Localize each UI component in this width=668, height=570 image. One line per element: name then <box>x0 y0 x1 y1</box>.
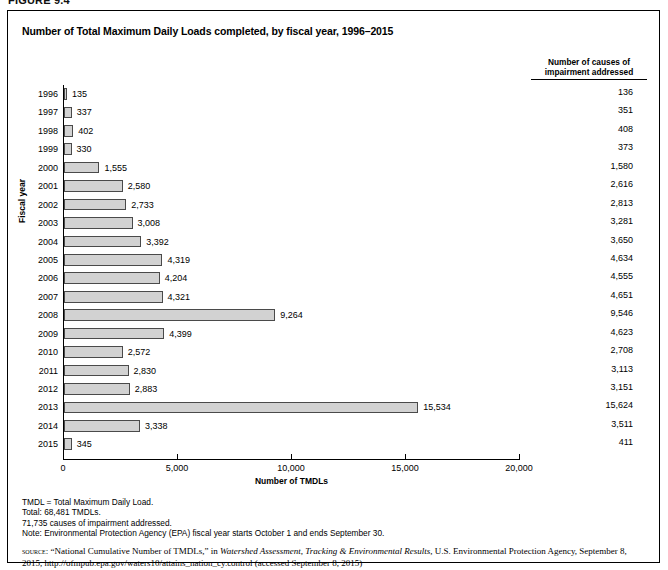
x-axis-tick <box>177 454 178 460</box>
bar-value-label: 9,264 <box>280 306 303 324</box>
bar <box>64 180 123 192</box>
bar-value-label: 4,321 <box>168 288 191 306</box>
bar <box>64 107 72 119</box>
bar-row: 20043,392 <box>8 233 661 251</box>
bar-row: 20122,883 <box>8 380 661 398</box>
x-axis-label: Number of TMDLs <box>63 476 520 486</box>
bar <box>64 162 99 174</box>
bar <box>64 383 130 395</box>
note-line: 71,735 causes of impairment addressed. <box>22 518 384 528</box>
bar <box>64 438 72 450</box>
x-axis-tick-label: 0 <box>60 463 65 473</box>
bar-year-label: 2001 <box>27 177 58 195</box>
bar <box>64 199 126 211</box>
bar <box>64 402 418 414</box>
bar-value-label: 337 <box>77 103 92 121</box>
x-axis-tick-label: 10,000 <box>277 463 305 473</box>
bar <box>64 125 73 137</box>
source-italic-title: Watershed Assessment, Tracking & Environ… <box>220 546 430 556</box>
bar-row: 20143,338 <box>8 417 661 435</box>
x-axis-tick-label: 20,000 <box>505 463 533 473</box>
bar-value-label: 345 <box>77 435 92 453</box>
bar-year-label: 2013 <box>27 398 58 416</box>
bar-value-label: 2,830 <box>134 362 157 380</box>
bar-row: 20112,830 <box>8 362 661 380</box>
bar-year-label: 2012 <box>27 380 58 398</box>
bar <box>64 254 162 266</box>
bar-year-label: 1997 <box>27 103 58 121</box>
bar <box>64 328 164 340</box>
note-line: Total: 68,481 TMDLs. <box>22 507 384 517</box>
bar-row: 1996135 <box>8 85 661 103</box>
x-axis-tick-label: 15,000 <box>391 463 419 473</box>
bar-row: 20001,555 <box>8 159 661 177</box>
bar-year-label: 1996 <box>27 85 58 103</box>
x-axis-tick <box>63 454 64 460</box>
bar-year-label: 2003 <box>27 214 58 232</box>
note-line: Note: Environmental Protection Agency (E… <box>22 528 384 538</box>
bar-row: 20074,321 <box>8 288 661 306</box>
bar-value-label: 3,392 <box>146 233 169 251</box>
bar-year-label: 1998 <box>27 122 58 140</box>
bar <box>64 346 123 358</box>
bar-year-label: 2009 <box>27 325 58 343</box>
bar-year-label: 2010 <box>27 343 58 361</box>
bar <box>64 236 141 248</box>
bar-row: 20064,204 <box>8 269 661 287</box>
bar-value-label: 402 <box>78 122 93 140</box>
bar-value-label: 2,572 <box>128 343 151 361</box>
bar-value-label: 4,319 <box>167 251 190 269</box>
bar-row: 20089,264 <box>8 306 661 324</box>
x-axis-tick <box>519 454 520 460</box>
bar <box>64 88 67 100</box>
note-line: TMDL = Total Maximum Daily Load. <box>22 497 384 507</box>
bar-value-label: 330 <box>77 140 92 158</box>
figure-label: FIGURE 9.4 <box>8 0 70 6</box>
source-label: source: <box>22 546 48 556</box>
bar-year-label: 2006 <box>27 269 58 287</box>
bar-year-label: 2000 <box>27 159 58 177</box>
bar-year-label: 2004 <box>27 233 58 251</box>
source-part1: “National Cumulative Number of TMDLs,” i… <box>48 546 220 556</box>
figure-container: Number of Total Maximum Daily Loads comp… <box>7 10 660 563</box>
figure-source: source: “National Cumulative Number of T… <box>22 546 647 569</box>
bar-row: 20102,572 <box>8 343 661 361</box>
bar-row: 20054,319 <box>8 251 661 269</box>
bar-year-label: 1999 <box>27 140 58 158</box>
bar-row: 1997337 <box>8 103 661 121</box>
bar-year-label: 2008 <box>27 306 58 324</box>
figure-notes: TMDL = Total Maximum Daily Load.Total: 6… <box>22 497 384 538</box>
bar-year-label: 2015 <box>27 435 58 453</box>
bar <box>64 272 160 284</box>
bars-area: 199613519973371998402199933020001,555200… <box>8 85 661 459</box>
bar <box>64 365 129 377</box>
bar-row: 20012,580 <box>8 177 661 195</box>
bar-year-label: 2014 <box>27 417 58 435</box>
bar-value-label: 135 <box>72 85 87 103</box>
bar-year-label: 2005 <box>27 251 58 269</box>
bar-value-label: 1,555 <box>104 159 127 177</box>
bar-value-label: 4,399 <box>169 325 192 343</box>
bar-row: 20022,733 <box>8 196 661 214</box>
bar <box>64 217 133 229</box>
bar <box>64 420 140 432</box>
bar <box>64 309 275 321</box>
bar-value-label: 15,534 <box>423 398 451 416</box>
bar <box>64 143 72 155</box>
bar-row: 1998402 <box>8 122 661 140</box>
bar-value-label: 2,580 <box>128 177 151 195</box>
bar-value-label: 4,204 <box>165 269 188 287</box>
bar-row: 2015345 <box>8 435 661 453</box>
bar-chart-plot: Fiscal year 1996135199733719984021999330… <box>8 11 661 564</box>
bar-row: 201315,534 <box>8 398 661 416</box>
bar-row: 20094,399 <box>8 325 661 343</box>
bar-year-label: 2007 <box>27 288 58 306</box>
bar-row: 20033,008 <box>8 214 661 232</box>
bar-value-label: 3,338 <box>145 417 168 435</box>
bar <box>64 291 163 303</box>
bar-year-label: 2011 <box>27 362 58 380</box>
bar-value-label: 3,008 <box>138 214 161 232</box>
x-axis-tick <box>291 454 292 460</box>
x-axis-tick <box>405 454 406 460</box>
bar-row: 1999330 <box>8 140 661 158</box>
